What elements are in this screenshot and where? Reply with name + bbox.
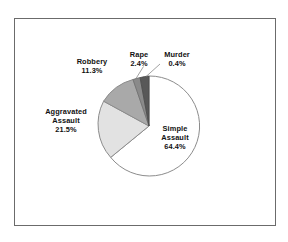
pie-label-murder-value: 0.4% [157, 59, 197, 68]
pie-label-rape-value: 2.4% [122, 59, 156, 68]
pie-label-simple-assault: Simple Assault 64.4% [148, 124, 202, 152]
pie-label-simple-assault-line1: Simple [148, 124, 202, 133]
pie-label-robbery-line1: Robbery [64, 57, 120, 66]
pie-label-rape: Rape 2.4% [122, 50, 156, 68]
chart-plot-area: Simple Assault 64.4% Aggravated Assault … [0, 0, 288, 242]
pie-label-simple-assault-value: 64.4% [148, 142, 202, 151]
pie-chart-figure: Simple Assault 64.4% Aggravated Assault … [0, 0, 288, 242]
pie-label-simple-assault-line2: Assault [148, 133, 202, 142]
pie-label-robbery: Robbery 11.3% [64, 57, 120, 75]
pie-label-aggravated-assault: Aggravated Assault 21.5% [34, 107, 98, 135]
pie-label-aggravated-assault-line1: Aggravated [34, 107, 98, 116]
pie-label-rape-line1: Rape [122, 50, 156, 59]
pie-label-aggravated-assault-value: 21.5% [34, 125, 98, 134]
pie-label-murder: Murder 0.4% [157, 50, 197, 68]
pie-label-murder-line1: Murder [157, 50, 197, 59]
pie-label-robbery-value: 11.3% [64, 66, 120, 75]
pie-label-aggravated-assault-line2: Assault [34, 116, 98, 125]
